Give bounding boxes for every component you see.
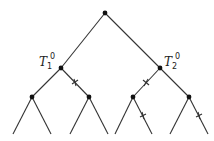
svg-text:1: 1	[47, 62, 52, 71]
root-node	[103, 11, 108, 16]
tree-diagram: T 1 0 T 2 0	[0, 0, 214, 141]
level2-node	[30, 95, 35, 100]
level2-node	[87, 95, 92, 100]
svg-text:0: 0	[50, 52, 55, 61]
svg-text:0: 0	[175, 52, 180, 61]
level2-node	[131, 95, 136, 100]
t2-node	[158, 66, 163, 71]
cross-marks	[72, 79, 202, 119]
t2-label: T 2 0	[164, 52, 180, 71]
t1-node	[59, 66, 64, 71]
svg-text:2: 2	[172, 62, 177, 71]
tree-edges	[13, 13, 208, 134]
t1-label: T 1 0	[39, 52, 55, 71]
level2-node	[187, 95, 192, 100]
